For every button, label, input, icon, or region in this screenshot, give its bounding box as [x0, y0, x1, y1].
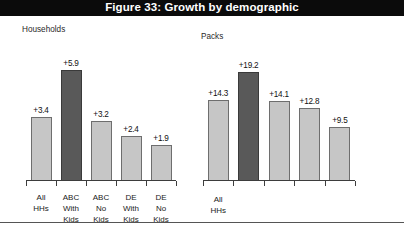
bar-slot: +3.4 [26, 44, 56, 181]
bar-slot: +12.8 [294, 46, 324, 181]
bar-value-label: +14.3 [208, 90, 228, 98]
chart-households-bars: +3.4+5.9+3.2+2.4+1.9 [26, 44, 176, 181]
bar-slot: +14.1 [264, 46, 294, 181]
category-label-line: Kids [63, 214, 79, 225]
chart-packs-bars: +14.3+19.2+14.1+12.8+9.5 [203, 46, 355, 181]
chart-households-category-labels: AllHHsABCWithKidsABCNoKidsDEWithKidsDENo… [26, 192, 176, 225]
category-label: ABCWithKids [56, 192, 86, 225]
category-label-line: With [63, 203, 79, 214]
category-label-line: All [214, 194, 223, 205]
bar-slot: +14.3 [203, 46, 233, 181]
bar-value-label: +3.2 [93, 111, 108, 119]
bar-rect [269, 101, 290, 181]
bar-rect [151, 145, 172, 181]
category-label: DEWithKids [116, 192, 146, 225]
category-label-line: No [96, 203, 106, 214]
footer-divider [0, 222, 404, 223]
bar-rect [31, 117, 52, 181]
category-label-line: Kids [123, 214, 139, 225]
axis-tick [116, 181, 117, 186]
axis-tick [176, 181, 177, 186]
panel-packs-title: Packs [201, 33, 223, 41]
category-label: AllHHs [203, 194, 233, 216]
bar-value-label: +1.9 [153, 135, 168, 143]
chart-households-plot: +3.4+5.9+3.2+2.4+1.9 [26, 44, 176, 189]
bar-rect [299, 108, 320, 181]
category-label [264, 194, 294, 216]
bar-slot: +19.2 [233, 46, 263, 181]
category-label [325, 194, 355, 216]
category-label: ABCNoKids [86, 192, 116, 225]
panel-packs: Packs +14.3+19.2+14.1+12.8+9.5 AllHHs [200, 16, 404, 220]
axis-tick [294, 181, 295, 186]
category-label-line: DE [155, 192, 166, 203]
category-label [294, 194, 324, 216]
axis-tick [146, 181, 147, 186]
bar-slot: +3.2 [86, 44, 116, 181]
bar-value-label: +5.9 [63, 60, 78, 68]
bar-rect [208, 100, 229, 181]
bar-value-label: +14.1 [269, 91, 289, 99]
bar-value-label: +19.2 [239, 62, 259, 70]
axis-tick [264, 181, 265, 186]
category-label-line: DE [125, 192, 136, 203]
figure-title: Figure 33: Growth by demographic [105, 2, 299, 14]
axis-tick [56, 181, 57, 186]
bar-slot: +1.9 [146, 44, 176, 181]
bar-rect [238, 72, 259, 181]
chart-packs-plot: +14.3+19.2+14.1+12.8+9.5 [203, 46, 355, 189]
figure-root: Figure 33: Growth by demographic Househo… [0, 0, 404, 236]
category-label-line: Kids [153, 214, 169, 225]
figure-title-bar: Figure 33: Growth by demographic [0, 0, 404, 16]
panel-households-title: Households [22, 26, 65, 34]
bar-rect [121, 136, 142, 181]
bar-slot: +5.9 [56, 44, 86, 181]
bar-value-label: +12.8 [300, 98, 320, 106]
bar-slot: +9.5 [325, 46, 355, 181]
axis-tick [325, 181, 326, 186]
category-label-line: ABC [93, 192, 109, 203]
category-label-line: HHs [210, 205, 226, 216]
bar-rect [61, 70, 82, 181]
bar-value-label: +9.5 [332, 117, 347, 125]
panel-households: Households +3.4+5.9+3.2+2.4+1.9 AllHHsAB… [0, 16, 200, 220]
bar-value-label: +3.4 [33, 107, 48, 115]
category-label-line: No [156, 203, 166, 214]
category-label-line: ABC [63, 192, 79, 203]
category-label-line: With [123, 203, 139, 214]
chart-packs-category-labels: AllHHs [203, 194, 355, 216]
bar-value-label: +2.4 [123, 126, 138, 134]
bar-rect [91, 121, 112, 181]
axis-tick [355, 181, 356, 186]
chart-households-axis-ticks [26, 181, 176, 186]
category-label: AllHHs [26, 192, 56, 225]
bar-slot: +2.4 [116, 44, 146, 181]
axis-tick [203, 181, 204, 186]
category-label [233, 194, 263, 216]
category-label-line: Kids [93, 214, 109, 225]
category-label-line: HHs [33, 203, 49, 214]
axis-tick [86, 181, 87, 186]
category-label: DENoKids [146, 192, 176, 225]
chart-packs-axis-ticks [203, 181, 355, 186]
axis-tick [233, 181, 234, 186]
bar-rect [329, 127, 350, 181]
category-label-line: All [37, 192, 46, 203]
axis-tick [26, 181, 27, 186]
